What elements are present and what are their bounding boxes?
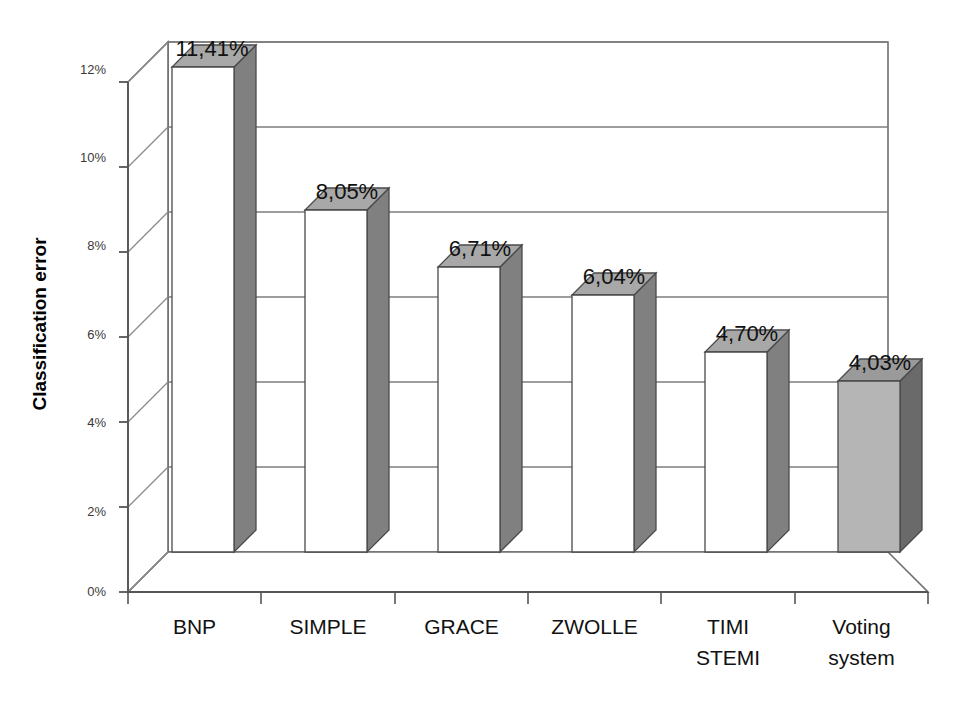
- classification-error-bar-chart: Classification error 12% 10% 8% 6% 4% 2%…: [0, 0, 957, 708]
- category-label-timi-stemi: TIMI STEMI: [661, 611, 795, 673]
- category-label-voting-system: Voting system: [795, 611, 928, 673]
- bar-grace-side: [500, 245, 522, 552]
- bar-timi-stemi[interactable]: [705, 330, 789, 552]
- category-label-grace: GRACE: [395, 611, 528, 642]
- bar-bnp[interactable]: [172, 45, 256, 552]
- bar-zwolle[interactable]: [572, 273, 656, 552]
- floor-plane: [128, 552, 928, 592]
- value-label-timi-stemi: 4,70%: [672, 321, 822, 347]
- y-axis-ticks: [119, 82, 128, 592]
- bar-timi-stemi-side: [767, 330, 789, 552]
- category-label-bnp: BNP: [128, 611, 261, 642]
- bar-zwolle-side: [634, 273, 656, 552]
- bar-simple-front: [305, 210, 367, 552]
- x-axis-ticks: [128, 592, 928, 604]
- category-label-simple: SIMPLE: [261, 611, 395, 642]
- bar-grace[interactable]: [438, 245, 522, 552]
- bar-simple-side: [367, 188, 389, 552]
- bar-voting-system[interactable]: [838, 359, 922, 552]
- value-label-bnp: 11,41%: [132, 36, 292, 62]
- bar-grace-front: [438, 267, 500, 552]
- bar-timi-stemi-front: [705, 352, 767, 552]
- value-label-voting-system: 4,03%: [805, 350, 955, 376]
- bar-voting-system-side: [900, 359, 922, 552]
- bar-bnp-front: [172, 67, 234, 552]
- bar-voting-system-front: [838, 381, 900, 552]
- bar-bnp-side: [234, 45, 256, 552]
- bar-zwolle-front: [572, 295, 634, 552]
- value-label-grace: 6,71%: [405, 236, 555, 262]
- value-label-simple: 8,05%: [272, 179, 422, 205]
- value-label-zwolle: 6,04%: [539, 264, 689, 290]
- category-label-zwolle: ZWOLLE: [528, 611, 661, 642]
- bar-simple[interactable]: [305, 188, 389, 552]
